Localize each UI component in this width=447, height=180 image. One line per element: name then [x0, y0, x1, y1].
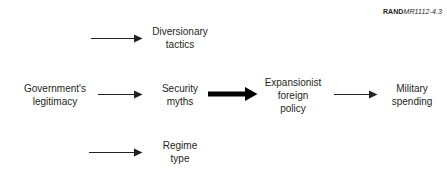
- arrow-legitimacy-to-diversionary: [91, 35, 143, 43]
- node-regime-type: Regime type: [146, 139, 214, 165]
- node-expansionist-foreign-policy: Expansionist foreign policy: [256, 76, 330, 115]
- figure-identifier: RANDMR1112-4.3: [383, 7, 442, 16]
- node-security-myths: Security myths: [146, 82, 214, 108]
- arrow-legitimacy-to-regime: [89, 149, 143, 157]
- arrow-expansionist-to-military: [334, 91, 378, 99]
- arrow-legitimacy-to-security: [98, 91, 143, 99]
- node-diversionary-tactics: Diversionary tactics: [144, 25, 216, 51]
- node-governments-legitimacy: Government's legitimacy: [10, 82, 100, 108]
- figure-number-label: MR1112-4.3: [404, 8, 442, 15]
- diagram-canvas: RANDMR1112-4.3 Government's legitimacy D: [0, 0, 447, 180]
- node-military-spending: Military spending: [380, 82, 444, 108]
- rand-brand-label: RAND: [383, 8, 404, 15]
- arrow-security-to-expansionist: [208, 87, 258, 101]
